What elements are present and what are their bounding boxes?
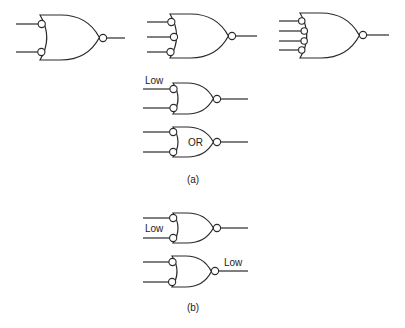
or-gate-body	[300, 13, 359, 58]
gate-diagram-svg: Low OR Low Low (a) (b)	[0, 0, 405, 328]
input-inversion-bubble-icon	[170, 148, 177, 155]
gate7-output-label-low: Low	[224, 257, 243, 268]
input-inversion-bubble-icon	[170, 85, 177, 92]
input-inversion-bubble-icon	[167, 48, 174, 55]
input-inversion-bubble-icon	[301, 38, 307, 44]
gate-g1	[16, 15, 125, 60]
gates-layer	[16, 13, 389, 287]
or-gate-body	[173, 83, 213, 114]
or-gate-body	[173, 213, 213, 243]
input-inversion-bubble-icon	[299, 47, 305, 53]
input-inversion-bubble-icon	[170, 104, 177, 111]
output-inversion-bubble-icon	[213, 224, 220, 231]
input-inversion-bubble-icon	[170, 214, 177, 221]
gate5-inner-label-or: OR	[188, 137, 203, 148]
output-inversion-bubble-icon	[211, 267, 218, 274]
gate-g3	[279, 13, 389, 58]
output-inversion-bubble-icon	[228, 32, 235, 39]
input-inversion-bubble-icon	[299, 18, 305, 24]
input-inversion-bubble-icon	[168, 18, 175, 25]
input-inversion-bubble-icon	[170, 33, 177, 40]
gate-g2	[147, 14, 257, 58]
input-inversion-bubble-icon	[170, 128, 177, 135]
gate6-input-label-low: Low	[145, 223, 164, 234]
input-inversion-bubble-icon	[169, 258, 176, 265]
or-gate-body	[172, 256, 211, 287]
input-inversion-bubble-icon	[301, 28, 307, 34]
or-gate-body	[170, 14, 228, 58]
caption-a: (a)	[187, 174, 199, 185]
or-gate-body	[40, 15, 99, 60]
caption-b: (b)	[187, 302, 199, 313]
input-inversion-bubble-icon	[38, 48, 45, 55]
output-inversion-bubble-icon	[359, 31, 366, 38]
output-inversion-bubble-icon	[213, 95, 220, 102]
input-inversion-bubble-icon	[170, 234, 177, 241]
output-inversion-bubble-icon	[213, 138, 220, 145]
input-inversion-bubble-icon	[169, 278, 176, 285]
gate-g4	[143, 83, 248, 114]
input-inversion-bubble-icon	[38, 20, 45, 27]
output-inversion-bubble-icon	[99, 34, 106, 41]
gate4-input-label-low: Low	[145, 75, 164, 86]
logic-gate-figure: Low OR Low Low (a) (b)	[0, 0, 405, 328]
